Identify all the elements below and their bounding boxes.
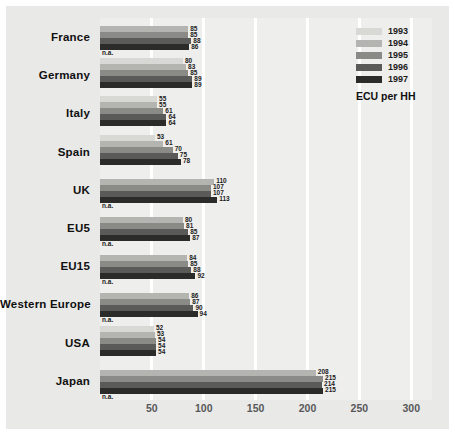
legend-swatch bbox=[356, 76, 382, 83]
legend-swatch bbox=[356, 64, 382, 71]
bar bbox=[100, 197, 217, 203]
bar-value-label: 61 bbox=[165, 140, 172, 146]
missing-value-marker: n.a. bbox=[102, 317, 113, 323]
bar-row: n.a.86879094 bbox=[100, 285, 432, 323]
category-label: Western Europe bbox=[0, 285, 96, 323]
x-tick-label: 300 bbox=[402, 402, 420, 414]
bar-group: n.a.84858892 bbox=[100, 247, 432, 285]
bar-group: n.a.110107107113 bbox=[100, 171, 432, 209]
category-label: Italy bbox=[0, 94, 96, 132]
bar bbox=[100, 82, 192, 88]
category-label: UK bbox=[0, 171, 96, 209]
bar bbox=[100, 44, 189, 50]
bar-value-label: 215 bbox=[325, 387, 336, 393]
bar-value-label: 92 bbox=[197, 273, 204, 279]
category-label: Japan bbox=[0, 362, 96, 400]
bar-row: n.a.110107107113 bbox=[100, 171, 432, 209]
legend-label: 1997 bbox=[388, 74, 408, 84]
bar-value-label: 64 bbox=[168, 120, 175, 126]
missing-value-marker: n.a. bbox=[102, 394, 113, 400]
bar bbox=[100, 311, 198, 317]
bar-group: n.a.208215214215 bbox=[100, 362, 432, 400]
category-label: France bbox=[0, 18, 96, 56]
bar-value-label: 94 bbox=[200, 311, 207, 317]
bar bbox=[100, 159, 181, 165]
x-tick-label: 100 bbox=[195, 402, 213, 414]
legend-item: 1996 bbox=[356, 62, 442, 72]
bar-group: n.a.80818587 bbox=[100, 209, 432, 247]
bar-row: 5361707578 bbox=[100, 133, 432, 171]
missing-value-marker: n.a. bbox=[102, 203, 113, 209]
bar bbox=[100, 273, 195, 279]
missing-value-marker: n.a. bbox=[102, 241, 113, 247]
bar bbox=[100, 120, 166, 126]
category-label: EU5 bbox=[0, 209, 96, 247]
bar-value-label: 78 bbox=[183, 158, 190, 164]
category-label: Germany bbox=[0, 56, 96, 94]
legend-unit-label: ECU per HH bbox=[356, 90, 416, 102]
bar bbox=[100, 388, 323, 394]
legend-item: 1995 bbox=[356, 50, 442, 60]
x-tick-label: 150 bbox=[247, 402, 265, 414]
legend-label: 1993 bbox=[388, 26, 408, 36]
x-tick-label: 50 bbox=[146, 402, 158, 414]
legend-item: 1997 bbox=[356, 74, 442, 84]
legend-label: 1995 bbox=[388, 50, 408, 60]
bar-value-label: 113 bbox=[219, 196, 230, 202]
x-tick-label: 250 bbox=[351, 402, 369, 414]
legend-item: 1994 bbox=[356, 38, 442, 48]
legend-item: 1993 bbox=[356, 26, 442, 36]
bar-value-label: 54 bbox=[158, 349, 165, 355]
legend-swatch bbox=[356, 52, 382, 59]
missing-value-marker: n.a. bbox=[102, 279, 113, 285]
legend-swatch bbox=[356, 40, 382, 47]
bar-value-label: 87 bbox=[192, 235, 199, 241]
bar-value-label: 86 bbox=[191, 44, 198, 50]
x-axis: 50100150200250300 bbox=[100, 400, 432, 424]
bar bbox=[100, 350, 156, 356]
bar-group: 5361707578 bbox=[100, 133, 432, 171]
missing-value-marker: n.a. bbox=[102, 50, 113, 56]
bar-value-label: 53 bbox=[157, 134, 164, 140]
category-label: USA bbox=[0, 324, 96, 362]
legend: 19931994199519961997 ECU per HH bbox=[356, 26, 442, 86]
bar-row: n.a.80818587 bbox=[100, 209, 432, 247]
legend-label: 1996 bbox=[388, 62, 408, 72]
bar bbox=[100, 235, 190, 241]
bar-row: 5253545454 bbox=[100, 324, 432, 362]
bar-row: n.a.84858892 bbox=[100, 247, 432, 285]
x-tick-label: 200 bbox=[299, 402, 317, 414]
category-label: EU15 bbox=[0, 247, 96, 285]
bar-group: n.a.86879094 bbox=[100, 285, 432, 323]
legend-label: 1994 bbox=[388, 38, 408, 48]
chart-container: n.a.858588868083858989555561646453617075… bbox=[0, 0, 455, 435]
bar-group: 5253545454 bbox=[100, 324, 432, 362]
bar-value-label: 89 bbox=[194, 82, 201, 88]
bar-row: n.a.208215214215 bbox=[100, 362, 432, 400]
legend-swatch bbox=[356, 28, 382, 35]
category-label: Spain bbox=[0, 133, 96, 171]
legend-items: 19931994199519961997 bbox=[356, 26, 442, 84]
